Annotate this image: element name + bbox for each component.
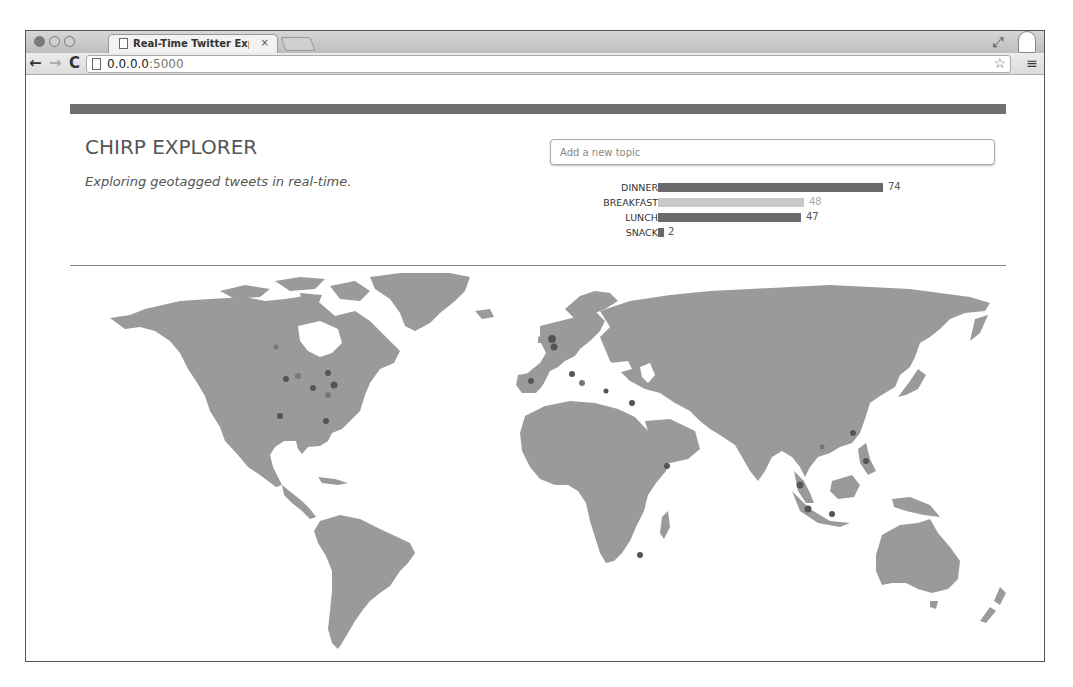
back-button[interactable]: ← [29, 55, 42, 71]
bar-value: 48 [809, 196, 822, 207]
topic-bar-chart: DINNER 74 BREAKFAST 48 LUNCH 47 SNACK 2 [546, 181, 966, 241]
page-icon [119, 38, 128, 49]
bar [658, 228, 664, 237]
bar-label: DINNER [621, 182, 658, 193]
tweet-dot[interactable] [629, 400, 635, 406]
bar [658, 198, 804, 207]
menu-icon[interactable]: ≡ [1026, 55, 1038, 71]
bar-label: LUNCH [625, 212, 658, 223]
new-tab-button[interactable] [280, 37, 315, 51]
tweet-dot[interactable] [664, 463, 670, 469]
tweet-dot[interactable] [325, 370, 331, 376]
bar-label: BREAKFAST [603, 197, 658, 208]
url-host: 0.0.0.0 [107, 57, 149, 71]
tweet-dot[interactable] [805, 506, 812, 513]
add-topic-input[interactable] [550, 139, 995, 165]
top-color-bar [70, 104, 1006, 114]
forward-button[interactable]: → [49, 55, 62, 71]
tweet-dot[interactable] [850, 430, 856, 436]
tweet-dot[interactable] [325, 392, 331, 398]
world-map[interactable] [70, 271, 1006, 661]
page-subtitle: Exploring geotagged tweets in real-time. [85, 174, 351, 189]
tweet-dot[interactable] [863, 458, 869, 464]
tab-close-icon[interactable]: × [261, 37, 269, 48]
page-icon [92, 58, 101, 70]
maximize-window-button[interactable] [64, 36, 75, 47]
minimize-window-button[interactable] [49, 36, 60, 47]
land-masses [110, 273, 1006, 649]
url-port: :5000 [149, 57, 184, 71]
tweet-dot[interactable] [551, 344, 558, 351]
close-window-button[interactable] [34, 36, 45, 47]
bar-row-snack[interactable]: SNACK 2 [546, 226, 966, 241]
title-bar: Real-Time Twitter Explorer × ⤢ [26, 31, 1044, 53]
tweet-dot[interactable] [295, 373, 301, 379]
page-title: CHIRP EXPLORER [85, 135, 257, 159]
bar-row-breakfast[interactable]: BREAKFAST 48 [546, 196, 966, 211]
tweet-dot[interactable] [829, 511, 835, 517]
tweet-dot[interactable] [283, 376, 289, 382]
tweet-dot[interactable] [323, 418, 329, 424]
tweet-dot[interactable] [604, 389, 609, 394]
address-bar[interactable]: 0.0.0.0:5000 ☆ [86, 55, 1011, 73]
bar [658, 183, 883, 192]
bar-value: 47 [806, 211, 819, 222]
tweet-dot[interactable] [797, 482, 804, 489]
profile-icon[interactable] [1018, 31, 1036, 53]
bar-value: 74 [888, 181, 901, 192]
tweet-dot[interactable] [579, 380, 585, 386]
page-content: CHIRP EXPLORER Exploring geotagged tweet… [26, 75, 1044, 662]
bar-value: 2 [668, 226, 674, 237]
browser-tab[interactable]: Real-Time Twitter Explorer × [108, 34, 278, 54]
bar-label: SNACK [626, 227, 658, 238]
reload-button[interactable]: C [69, 55, 80, 71]
tweet-dot[interactable] [274, 345, 279, 350]
browser-window: Real-Time Twitter Explorer × ⤢ ← → C 0.0… [25, 30, 1045, 662]
tweet-dot[interactable] [331, 382, 338, 389]
bar [658, 213, 801, 222]
tweet-dot[interactable] [569, 371, 575, 377]
tweet-dot[interactable] [310, 385, 316, 391]
header-divider [70, 265, 1006, 266]
bar-row-dinner[interactable]: DINNER 74 [546, 181, 966, 196]
tweet-dot[interactable] [637, 552, 643, 558]
bar-row-lunch[interactable]: LUNCH 47 [546, 211, 966, 226]
tweet-dot[interactable] [820, 445, 825, 450]
tweet-dot[interactable] [548, 335, 556, 343]
fullscreen-icon[interactable]: ⤢ [993, 34, 1004, 51]
tweet-dot[interactable] [277, 413, 283, 419]
bookmark-star-icon[interactable]: ☆ [993, 55, 1006, 71]
tweet-dot[interactable] [528, 378, 534, 384]
tab-title: Real-Time Twitter Explorer [133, 38, 249, 49]
url-text: 0.0.0.0:5000 [107, 57, 184, 71]
browser-toolbar: ← → C 0.0.0.0:5000 ☆ ≡ [26, 53, 1044, 75]
